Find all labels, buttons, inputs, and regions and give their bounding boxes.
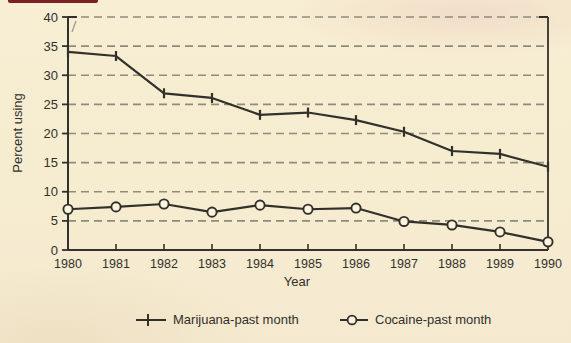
marker-circle-1985 <box>303 205 312 214</box>
marker-circle-1984 <box>255 201 264 210</box>
x-tick-label-1988: 1988 <box>438 257 466 271</box>
legend-label-marijuana: Marijuana-past month <box>173 312 299 327</box>
x-axis-title: Year <box>284 274 311 289</box>
x-tick-label-1981: 1981 <box>102 257 130 271</box>
y-tick-label-0: 0 <box>51 243 58 258</box>
y-axis-title: Percent using <box>10 93 25 173</box>
legend-label-cocaine: Cocaine-past month <box>375 312 491 327</box>
grid-layer <box>68 17 548 221</box>
x-tick-label-1989: 1989 <box>486 257 514 271</box>
marker-circle-1990 <box>543 237 552 246</box>
cocaine-circle-marker-icon <box>339 313 369 327</box>
legend-item-marijuana: Marijuana-past month <box>135 312 299 327</box>
x-tick-label-1980: 1980 <box>54 257 82 271</box>
marker-circle-1983 <box>207 208 216 217</box>
scan-artifact-red-strip <box>8 0 98 3</box>
x-tick-label-1983: 1983 <box>198 257 226 271</box>
x-tick-label-1987: 1987 <box>390 257 418 271</box>
y-tick-label-40: 40 <box>44 10 58 25</box>
marker-circle-1989 <box>495 227 504 236</box>
marker-circle-1988 <box>447 220 456 229</box>
scan-artifact-slash <box>72 21 76 32</box>
chart-legend: Marijuana-past month Cocaine-past month <box>0 312 571 334</box>
marijuana-plus-marker-icon <box>135 313 167 327</box>
x-tick-label-1986: 1986 <box>342 257 370 271</box>
y-tick-label-30: 30 <box>44 68 58 83</box>
marker-circle-1982 <box>159 199 168 208</box>
chart-figure: Percent using Year 051015202530354019801… <box>0 0 571 343</box>
x-tick-label-1990: 1990 <box>534 257 562 271</box>
legend-item-cocaine: Cocaine-past month <box>339 312 491 327</box>
x-tick-label-1985: 1985 <box>294 257 322 271</box>
y-tick-label-25: 25 <box>44 97 58 112</box>
label-layer: 0510152025303540198019811982198319841985… <box>44 10 562 272</box>
line-chart: Percent using Year 051015202530354019801… <box>0 0 571 343</box>
x-tick-label-1984: 1984 <box>246 257 274 271</box>
y-tick-label-20: 20 <box>44 126 58 141</box>
marker-circle-1987 <box>399 217 408 226</box>
marker-circle-1980 <box>63 205 72 214</box>
series-layer <box>63 47 552 246</box>
y-tick-label-15: 15 <box>44 155 58 170</box>
x-tick-label-1982: 1982 <box>150 257 178 271</box>
y-tick-label-35: 35 <box>44 39 58 54</box>
marker-circle-1981 <box>111 202 120 211</box>
y-tick-label-5: 5 <box>51 213 58 228</box>
marker-circle-1986 <box>351 203 360 212</box>
y-tick-label-10: 10 <box>44 184 58 199</box>
